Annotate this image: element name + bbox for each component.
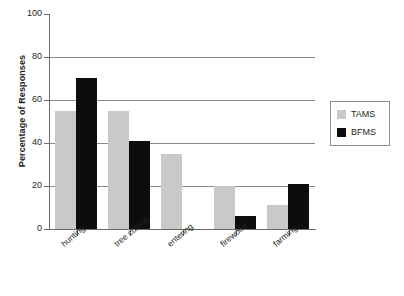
legend-swatch-bfms	[337, 128, 346, 137]
y-axis-label: 0	[2, 224, 42, 233]
bar-tams-tree-cutting	[108, 111, 129, 229]
bar-bfms-hunting	[76, 78, 97, 229]
y-axis-label: 100	[2, 9, 42, 18]
y-axis-label: 60	[2, 95, 42, 104]
y-axis-tick	[44, 229, 50, 230]
plot-area	[50, 14, 315, 229]
legend-label-tams: TAMS	[351, 110, 375, 119]
y-axis-label: 40	[2, 138, 42, 147]
legend-label-bfms: BFMS	[351, 128, 376, 137]
legend-item-tams: TAMS	[337, 110, 375, 119]
bar-tams-firewood	[214, 186, 235, 229]
y-axis-label: 80	[2, 52, 42, 61]
bar-bfms-farming	[288, 184, 309, 229]
legend-swatch-tams	[337, 110, 346, 119]
legend: TAMS BFMS	[330, 101, 390, 146]
bar-tams-entering	[161, 154, 182, 229]
bar-tams-farming	[267, 205, 288, 229]
legend-item-bfms: BFMS	[337, 128, 376, 137]
y-axis-label: 20	[2, 181, 42, 190]
bar-bfms-tree-cutting	[129, 141, 150, 229]
bar-chart: Percentage of Responses 020406080100 hun…	[0, 0, 404, 296]
bar-tams-hunting	[55, 111, 76, 229]
